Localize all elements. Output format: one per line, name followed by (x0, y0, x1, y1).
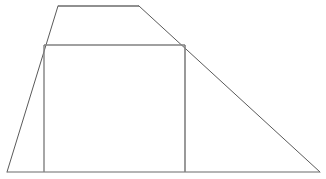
figure-svg (0, 0, 326, 179)
geometry-figure-canvas (0, 0, 326, 179)
figure-background (0, 0, 326, 179)
